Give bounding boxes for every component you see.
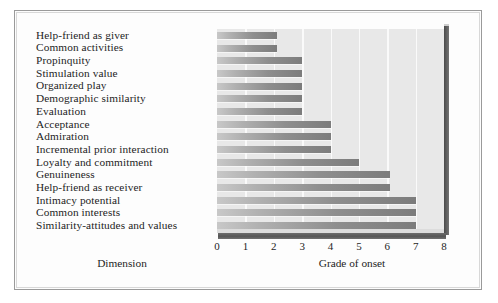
category-label: Help-friend as giver [36, 29, 216, 42]
bar-row [217, 156, 444, 169]
bar-row [217, 194, 444, 207]
category-label: Similarity-attitudes and values [36, 219, 216, 232]
bar [217, 70, 302, 77]
category-label: Organized play [36, 80, 216, 93]
bar [217, 45, 277, 52]
x-tick-label: 3 [299, 240, 305, 252]
x-tick-label: 6 [385, 240, 391, 252]
x-tick-label: 1 [243, 240, 249, 252]
bar-row [217, 131, 444, 144]
bar [217, 209, 416, 216]
bar-row [217, 92, 444, 105]
category-label: Stimulation value [36, 67, 216, 80]
category-label: Evaluation [36, 105, 216, 118]
plot-area [217, 29, 444, 232]
bar [217, 184, 390, 191]
bar-row [217, 118, 444, 131]
category-label: Intimacy potential [36, 194, 216, 207]
x-axis-tick-labels: 012345678 [217, 240, 444, 254]
bar-row [217, 54, 444, 67]
category-label: Loyalty and commitment [36, 156, 216, 169]
chart-figure: Help-friend as giverCommon activitiesPro… [0, 0, 498, 303]
bar [217, 57, 302, 64]
category-axis-labels: Help-friend as giverCommon activitiesPro… [36, 29, 216, 232]
bar [217, 171, 390, 178]
bar-row [217, 42, 444, 55]
category-label: Propinquity [36, 54, 216, 67]
category-label: Genuineness [36, 169, 216, 182]
category-label: Incremental prior interaction [36, 143, 216, 156]
x-tick-label: 5 [356, 240, 362, 252]
bar-row [217, 207, 444, 220]
bar [217, 108, 302, 115]
bar-series [217, 29, 444, 232]
x-axis-title: Grade of onset [272, 257, 432, 269]
bar [217, 146, 331, 153]
plot-right-wall [444, 26, 449, 235]
bar [217, 133, 331, 140]
bar [217, 83, 302, 90]
x-tick-label: 2 [271, 240, 277, 252]
category-label: Demographic similarity [36, 92, 216, 105]
category-label: Acceptance [36, 118, 216, 131]
x-tick-label: 4 [328, 240, 334, 252]
x-tick-label: 8 [441, 240, 447, 252]
bar-row [217, 143, 444, 156]
bar [217, 95, 302, 102]
bar-row [217, 80, 444, 93]
bar [217, 121, 331, 128]
bar [217, 197, 416, 204]
category-label: Common activities [36, 42, 216, 55]
y-axis-title: Dimension [62, 257, 182, 269]
x-tick-label: 0 [214, 240, 220, 252]
bar [217, 32, 277, 39]
plot-base [218, 233, 446, 239]
bar-row [217, 105, 444, 118]
bar-row [217, 181, 444, 194]
category-label: Help-friend as receiver [36, 181, 216, 194]
bar-row [217, 169, 444, 182]
category-label: Common interests [36, 207, 216, 220]
bar-row [217, 29, 444, 42]
x-tick-label: 7 [413, 240, 419, 252]
category-label: Admiration [36, 131, 216, 144]
bar [217, 159, 359, 166]
bar-row [217, 67, 444, 80]
